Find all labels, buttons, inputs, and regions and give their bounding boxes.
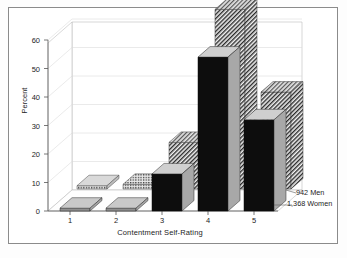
x-axis-label: Contentment Self-Rating [60,228,260,237]
x-tick-label-4: 4 [199,216,217,225]
x-tick-label-3: 3 [153,216,171,225]
y-tick-marks [44,40,48,211]
y-axis-label: Percent [20,71,29,131]
y-tick-label-0: 0 [22,207,40,216]
plot-area: 0 10 20 30 40 50 60 1 2 3 4 5 Percent Co… [0,0,347,258]
y-tick-label-20: 20 [22,150,40,159]
bar-men-3 [152,163,194,211]
x-tick-label-5: 5 [245,216,263,225]
y-tick-label-60: 60 [22,36,40,45]
x-tick-label-1: 1 [61,216,79,225]
chart-figure: 0 10 20 30 40 50 60 1 2 3 4 5 Percent Co… [0,0,347,258]
legend-item-men: 942 Men [296,188,324,197]
bar-men-5 [244,109,286,211]
bar-men-4 [198,47,240,211]
x-tick-marks [70,211,254,215]
chart-canvas [0,0,347,258]
legend-item-women: 1,368 Women [287,199,332,208]
y-tick-label-10: 10 [22,179,40,188]
x-tick-label-2: 2 [107,216,125,225]
